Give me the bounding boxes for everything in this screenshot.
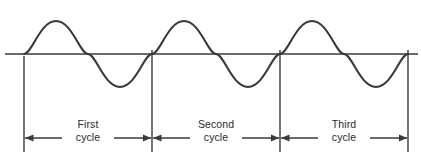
cycle-label-second-line1: Second <box>176 118 256 131</box>
cycle-label-third-line1: Third <box>304 118 384 131</box>
cycle-label-first: First cycle <box>48 118 128 143</box>
cycle-label-third-line2: cycle <box>304 131 384 144</box>
cycle-label-first-line1: First <box>48 118 128 131</box>
cycle-label-second-line2: cycle <box>176 131 256 144</box>
sine-wave-cycles-diagram: First cycle Second cycle Third cycle <box>0 0 421 160</box>
cycle-label-third: Third cycle <box>304 118 384 143</box>
cycle-label-second: Second cycle <box>176 118 256 143</box>
cycle-label-first-line2: cycle <box>48 131 128 144</box>
